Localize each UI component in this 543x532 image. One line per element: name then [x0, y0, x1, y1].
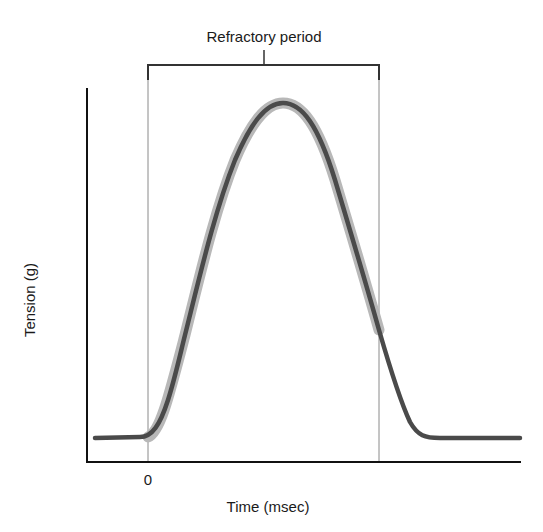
- twitch-chart: Refractory period 0 Time (msec) Tension …: [0, 0, 543, 532]
- refractory-bracket: [148, 50, 379, 80]
- refractory-halo: [148, 103, 379, 437]
- y-axis-label: Tension (g): [21, 263, 38, 337]
- refractory-period-label: Refractory period: [206, 28, 321, 45]
- x-axis-label: Time (msec): [227, 498, 310, 515]
- x-tick-0: 0: [144, 471, 152, 488]
- tension-curve: [95, 103, 520, 438]
